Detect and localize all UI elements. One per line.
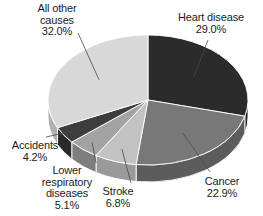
pie-top-slices	[48, 35, 248, 165]
slice-label-cancer: Cancer 22.9%	[186, 176, 258, 199]
slice-label-all-other-causes: All other causes 32.0%	[14, 3, 100, 38]
pie-chart: All other causes 32.0% Heart disease 29.…	[0, 0, 263, 216]
slice-label-heart-disease: Heart disease 29.0%	[163, 12, 259, 35]
slice-label-accidents: Accidents 4.2%	[1, 140, 69, 163]
slice-label-lower-respiratory-diseases: Lower respiratory diseases 5.1%	[30, 165, 104, 211]
